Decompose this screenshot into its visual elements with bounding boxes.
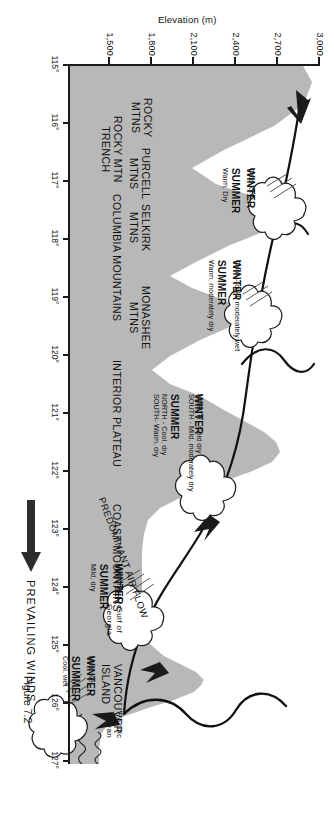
summer-title-interior: SUMMER xyxy=(169,394,180,492)
longitude-tick-124 xyxy=(63,586,70,588)
winter-desc-columbia: Cool— cold, moderately wet xyxy=(233,260,241,351)
longitude-tick-118 xyxy=(63,238,70,240)
elevation-axis: 3,000 2,700 2,400 2,100 1,800 1,500 xyxy=(70,64,320,66)
longitude-label-124: 124° xyxy=(50,577,60,595)
longitude-axis: 115° 116° 117° 118° 119° 120° 121° 122° … xyxy=(69,64,71,764)
longitude-tick-125 xyxy=(63,644,70,646)
region-label-selkirk-mtns: SELKIRK MTNS xyxy=(127,204,152,252)
summer-title-rockies: SUMMER xyxy=(230,168,241,213)
elevation-label-2700: 2,700 xyxy=(273,32,283,56)
summer-title-columbia: SUMMER xyxy=(216,260,227,351)
longitude-label-119: 119° xyxy=(50,288,60,305)
longitude-tick-121 xyxy=(63,412,70,414)
elevation-tick-2400 xyxy=(235,57,237,64)
summer-desc-rockies: Warm, Dry xyxy=(221,168,229,213)
region-label-vancouver-island: VANCOUVER ISLAND xyxy=(99,664,124,734)
figure-frame: Pacific Ocean VANCOUVER ISLAND Gulf of G… xyxy=(0,0,334,816)
elevation-tick-1800 xyxy=(151,57,153,64)
region-label-rocky-mtns: ROCKY MTNS xyxy=(129,98,154,138)
cloud-selkirk xyxy=(248,177,305,239)
longitude-label-123: 123° xyxy=(50,519,60,537)
summer-title-pacific: SUMMER xyxy=(70,656,81,701)
summer-desc-interior: NORTH - Cool, dry SOUTH- Warm, dry xyxy=(152,394,168,492)
region-label-monashee-mtns: MONASHEE MTNS xyxy=(127,286,152,350)
longitude-label-118: 118° xyxy=(50,230,60,247)
longitude-tick-127 xyxy=(63,760,70,762)
airflow-path-wiggle-a xyxy=(242,349,314,372)
cross-section-canvas: Pacific Ocean VANCOUVER ISLAND Gulf of G… xyxy=(0,0,334,816)
elevation-axis-title: Elevation (m) xyxy=(158,14,217,25)
winter-desc-rockies: Cold, dry xyxy=(247,168,255,213)
prevailing-winds-arrow-icon xyxy=(20,500,42,572)
elevation-label-2100: 2,100 xyxy=(189,32,199,56)
terrain-plot: Pacific Ocean VANCOUVER ISLAND Gulf of G… xyxy=(70,64,320,764)
climate-zone-pacific-coast: WINTER Mild, wet SUMMER Cool, wet xyxy=(61,656,96,701)
summer-desc-georgia: Mild, dry xyxy=(89,564,97,609)
longitude-label-125: 125° xyxy=(50,635,60,653)
climate-zone-interior-plateau: WINTER NORTH - Cold dry SOUTH - Mild, mo… xyxy=(152,394,204,492)
longitude-label-122: 122° xyxy=(50,461,60,479)
winter-desc-interior: NORTH - Cold dry SOUTH - Mild, moderatel… xyxy=(187,394,203,492)
longitude-label-117: 117° xyxy=(50,172,60,189)
longitude-label-121: 121° xyxy=(50,403,60,421)
longitude-label-126: 126° xyxy=(50,693,60,711)
prevailing-winds-legend: PREVAILING WINDS xyxy=(20,500,42,703)
longitude-tick-119 xyxy=(63,296,70,298)
longitude-tick-123 xyxy=(63,528,70,530)
winter-desc-pacific: Mild, wet xyxy=(87,656,95,701)
longitude-tick-120 xyxy=(63,354,70,356)
longitude-label-127: 127° xyxy=(50,751,60,769)
climate-zone-rockies: WINTER Cold, dry SUMMER Warm, Dry xyxy=(221,168,256,213)
climate-zone-columbia: WINTER Cool— cold, moderately wet SUMMER… xyxy=(207,260,242,351)
elevation-tick-2100 xyxy=(193,57,195,64)
elevation-label-1800: 1,800 xyxy=(147,32,157,56)
region-label-columbia-mountains: COLUMBIA MOUNTAINS xyxy=(110,194,122,322)
elevation-tick-1500 xyxy=(109,57,111,64)
longitude-tick-115 xyxy=(63,64,70,66)
region-label-interior-plateau: INTERIOR PLATEAU xyxy=(110,360,122,467)
longitude-tick-126 xyxy=(63,702,70,704)
longitude-tick-122 xyxy=(63,470,70,472)
climate-zone-georgia: WINTER Mild, moist SUMMER Mild, dry xyxy=(89,564,124,609)
region-label-purcell-mtns: PURCELL MTNS xyxy=(127,148,152,200)
summer-desc-columbia: Warm, moderately dry xyxy=(207,260,215,351)
elevation-label-2400: 2,400 xyxy=(231,32,241,56)
longitude-label-116: 116° xyxy=(50,114,60,131)
longitude-tick-116 xyxy=(63,122,70,124)
elevation-label-3000: 3,000 xyxy=(315,32,325,56)
longitude-label-115: 115° xyxy=(50,56,60,73)
longitude-tick-117 xyxy=(63,180,70,182)
elevation-tick-3000 xyxy=(319,57,321,64)
region-label-rocky-mtn-trench: ROCKY MTN TRENCH xyxy=(99,116,124,183)
longitude-label-120: 120° xyxy=(50,345,60,363)
elevation-label-1500: 1,500 xyxy=(105,32,115,56)
figure-caption: Figure 7.2 xyxy=(22,676,34,723)
summer-title-georgia: SUMMER xyxy=(98,564,109,609)
elevation-tick-2700 xyxy=(277,57,279,64)
